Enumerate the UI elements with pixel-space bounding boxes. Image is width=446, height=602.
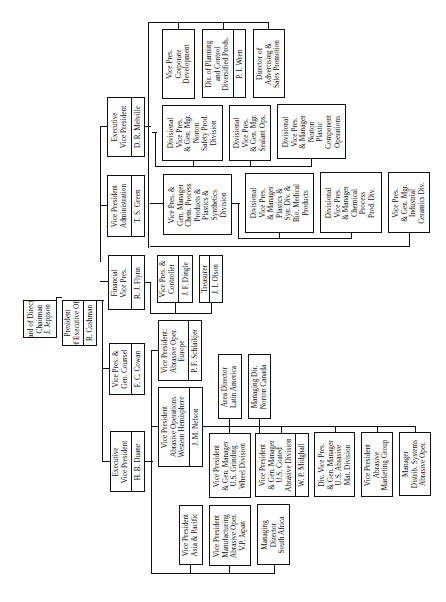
node-vp-general-counsel[interactable]: Vice Pres. & Gen. Counsel F. C. Cowan bbox=[109, 343, 145, 395]
node-name: J. I. Olson bbox=[212, 264, 221, 294]
connector bbox=[150, 313, 212, 314]
node-title: Vice Pres. & Gen. Manager Chem. Process … bbox=[167, 183, 227, 226]
node-title: Treasurer bbox=[200, 265, 209, 293]
connector bbox=[229, 565, 230, 574]
connector bbox=[148, 22, 149, 248]
node-title: Vice President & Gen. Manager U.S. Coate… bbox=[258, 438, 292, 491]
connector bbox=[96, 300, 104, 301]
connector bbox=[238, 203, 239, 239]
node-name: H. B. Duane bbox=[134, 443, 143, 479]
node-title: Board of Directors Chairman J. Jeppson bbox=[27, 301, 53, 337]
connector bbox=[151, 350, 152, 574]
node-name: R. Cushman bbox=[86, 305, 95, 341]
connector bbox=[250, 160, 251, 167]
connector bbox=[279, 232, 280, 239]
node-title: Divisional Vice Pres. & Gen. Mgr. Sealan… bbox=[233, 114, 267, 151]
connector bbox=[145, 126, 151, 127]
node-chem-process-plastics[interactable]: Vice Pres. & Gen. Manager Chem. Process … bbox=[163, 174, 232, 235]
node-title: Vice President Administration bbox=[111, 184, 128, 228]
connector bbox=[102, 461, 110, 462]
node-manufacturing-japan[interactable]: Vice President Manufacturing Abrasive Op… bbox=[209, 505, 251, 566]
node-president[interactable]: President Chief Executive Officer R. Cus… bbox=[62, 300, 97, 346]
connector bbox=[102, 300, 103, 462]
connector bbox=[150, 282, 151, 314]
node-title: Vice President Manufacturing Abrasive Op… bbox=[213, 513, 247, 557]
node-title: President Chief Executive Officer bbox=[64, 301, 81, 345]
node-norton-canada[interactable]: Managing Dir. Norton Canada bbox=[248, 354, 271, 419]
node-title: Vice President: Abrasive Oper. Europe bbox=[161, 328, 187, 372]
node-title: Vice Pres. Corporate Development bbox=[166, 44, 192, 83]
node-safety-products[interactable]: Divisional Vice Pres. & Gen. Mgr. Norton… bbox=[162, 105, 223, 161]
node-title: Area Director Latin America bbox=[221, 366, 238, 408]
node-evp-duane[interactable]: Executive Vice President H. B. Duane bbox=[110, 431, 145, 492]
node-abrasive-mat[interactable]: Div. Vice Pres. & Gen. Manager U.S. Abra… bbox=[314, 432, 355, 497]
connector bbox=[274, 564, 275, 574]
node-title: Managing Dir. Norton Canada bbox=[251, 364, 268, 408]
node-bio-medical[interactable]: Divisional Vice Pres. & Manager Plastics… bbox=[245, 173, 314, 233]
node-title: Executive Vice President bbox=[111, 106, 128, 148]
node-title: Vice President & Gen. Manager U.S. Grind… bbox=[213, 441, 247, 490]
node-latin-america[interactable]: Area Director Latin America bbox=[218, 354, 242, 419]
node-title: Vice Pres. & Gen. Counsel bbox=[112, 349, 129, 389]
node-title: Vice Pres. & Controller bbox=[159, 260, 176, 297]
connector bbox=[148, 22, 269, 23]
node-title: Vice President Asia & Pacific bbox=[182, 514, 199, 557]
node-vp-western-hemisphere[interactable]: Vice President Abrasive Operations Weste… bbox=[158, 387, 203, 467]
connector bbox=[193, 160, 194, 167]
node-sealant-ops[interactable]: Divisional Vice Pres. & Gen. Mgr. Sealan… bbox=[229, 105, 271, 161]
node-name: D. R. Melville bbox=[134, 106, 143, 148]
connector bbox=[259, 418, 260, 434]
node-distribution-systems[interactable]: Manager Distrib. Systems Abrasive Oper. bbox=[399, 432, 431, 496]
node-vp-controller[interactable]: Vice Pres. & Controller J. F. Dingle bbox=[157, 255, 193, 303]
node-advertising[interactable]: Director of Advertising & Sales Promotio… bbox=[253, 29, 285, 98]
node-name: J. F. Dingle bbox=[181, 262, 190, 295]
node-title: Divisional Vice Pres. & Manager Norton P… bbox=[281, 114, 341, 148]
connector bbox=[150, 203, 164, 204]
node-title: Financial Vice Pres. bbox=[111, 268, 128, 298]
node-title: Vice President Abrasive Marketing Group bbox=[364, 439, 390, 490]
node-asia-pacific[interactable]: Vice President Asia & Pacific bbox=[179, 505, 203, 565]
connector bbox=[409, 232, 410, 247]
connector bbox=[190, 565, 191, 574]
node-plastic-component[interactable]: Divisional Vice Pres. & Manager Norton P… bbox=[277, 104, 346, 159]
node-title: Vice Pres. & Gen. Mgr. Industrial Cerami… bbox=[392, 182, 426, 224]
connector bbox=[211, 303, 212, 314]
node-title: Divisional Vice Pres. & Manager Plastics… bbox=[249, 184, 309, 222]
node-evp-melville[interactable]: Executive Vice President D. R. Melville bbox=[107, 97, 145, 157]
connector bbox=[155, 132, 156, 167]
node-title: Vice President Abrasive Operations Weste… bbox=[161, 397, 187, 458]
node-vp-admin[interactable]: Vice President Administration T. S. Gree… bbox=[107, 175, 145, 237]
node-south-africa[interactable]: Managing Director South Africa bbox=[257, 504, 290, 565]
node-corporate-development[interactable]: Vice Pres. Corporate Development bbox=[162, 29, 195, 99]
connector bbox=[150, 246, 410, 247]
node-title: Divisional Vice Pres. & Manager Chemical… bbox=[325, 186, 377, 219]
connector bbox=[56, 297, 62, 298]
node-financial-vp[interactable]: Financial Vice Pres. R. J. Flynn bbox=[108, 255, 145, 310]
node-name: F. C. Cowan bbox=[134, 351, 143, 387]
connector bbox=[155, 166, 312, 167]
node-chemical-process-division[interactable]: Divisional Vice Pres. & Manager Chemical… bbox=[320, 172, 382, 233]
connector bbox=[202, 426, 416, 427]
node-title: Dir. of Planning and Control Diversified… bbox=[205, 37, 231, 90]
node-coated-abrasive[interactable]: Vice President & Gen. Manager U.S. Coate… bbox=[255, 433, 309, 497]
node-title: Div. Vice Pres. & Gen. Manager U.S. Abra… bbox=[317, 440, 351, 489]
connector bbox=[175, 303, 176, 314]
node-treasurer[interactable]: Treasurer J. I. Olson bbox=[199, 255, 223, 303]
connector bbox=[351, 232, 352, 239]
node-grinding-wheel[interactable]: Vice President & Gen. Manager U.S. Grind… bbox=[209, 433, 251, 498]
node-name: T. S. Green bbox=[134, 189, 143, 222]
node-title: Managing Director South Africa bbox=[261, 516, 287, 553]
node-planning-control[interactable]: Dir. of Planning and Control Diversified… bbox=[202, 29, 246, 98]
node-vp-europe[interactable]: Vice President: Abrasive Oper. Europe P.… bbox=[158, 320, 202, 381]
node-industrial-ceramics[interactable]: Vice Pres. & Gen. Mgr. Industrial Cerami… bbox=[388, 172, 430, 233]
connector bbox=[311, 158, 312, 167]
node-abrasive-marketing[interactable]: Vice President Abrasive Marketing Group bbox=[361, 432, 393, 497]
node-name: J. M. Nelson bbox=[192, 408, 201, 445]
node-name: W. P. Midghall bbox=[298, 443, 307, 487]
node-title: Divisional Vice Pres. & Gen. Mgr. Norton… bbox=[167, 114, 219, 151]
connector bbox=[238, 238, 352, 239]
node-board-of-directors[interactable]: Board of Directors Chairman J. Jeppson bbox=[23, 300, 57, 338]
connector bbox=[151, 573, 275, 574]
node-name: P. F. Schlaikjer bbox=[191, 329, 200, 373]
connector bbox=[100, 281, 108, 282]
